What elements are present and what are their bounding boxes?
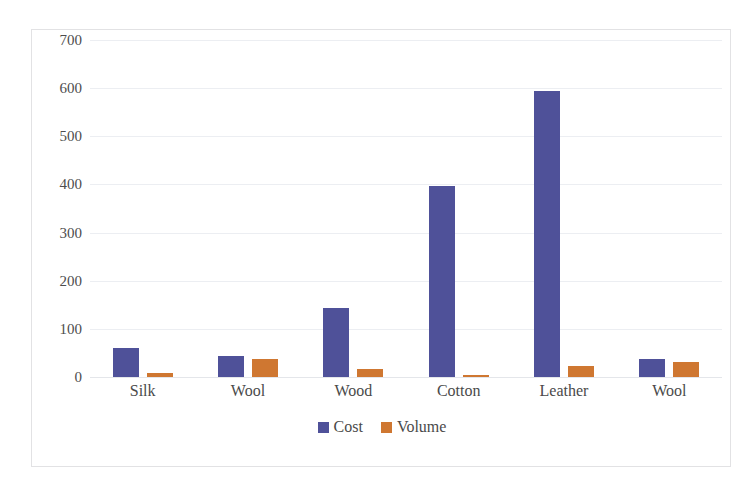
cut-off-header-strip: · · · · · · · · · · · · · · · · · (0, 0, 756, 14)
bars-layer (90, 40, 722, 377)
y-axis-tick-label: 400 (60, 176, 83, 193)
bar-volume-cotton[interactable] (463, 375, 489, 377)
x-axis-label-leather-4: Leather (540, 382, 589, 400)
x-axis-label-cotton-3: Cotton (437, 382, 481, 400)
legend-item-cost[interactable]: Cost (318, 418, 363, 436)
y-axis-tick-labels: 0100200300400500600700 (32, 30, 88, 468)
bar-group (406, 40, 511, 377)
bar-group (617, 40, 722, 377)
y-axis-tick-label: 300 (60, 224, 83, 241)
gridline (90, 377, 722, 378)
legend-swatch-icon (381, 422, 392, 433)
legend-label: Volume (397, 418, 446, 436)
y-axis-tick-label: 0 (75, 369, 83, 386)
y-axis-tick-label: 100 (60, 320, 83, 337)
plot-area (90, 40, 722, 377)
chart-frame: 0100200300400500600700 SilkWoolWoodCotto… (31, 29, 731, 467)
bar-volume-silk[interactable] (147, 373, 173, 377)
y-axis-tick-label: 500 (60, 128, 83, 145)
chart-plot-wrapper: 0100200300400500600700 SilkWoolWoodCotto… (32, 30, 732, 468)
bar-cost-wool[interactable] (639, 359, 665, 377)
bar-volume-wood[interactable] (357, 369, 383, 377)
legend-label: Cost (334, 418, 363, 436)
cut-off-header-text: · · · · · · · · · · · · · · · · · (18, 0, 209, 4)
bar-volume-wool[interactable] (252, 359, 278, 377)
x-axis-category-labels: SilkWoolWoodCottonLeatherWool (90, 382, 722, 408)
y-axis-tick-label: 200 (60, 272, 83, 289)
y-axis-tick-label: 600 (60, 80, 83, 97)
bar-group (511, 40, 616, 377)
bar-cost-cotton[interactable] (429, 186, 455, 377)
chart-legend: CostVolume (32, 418, 732, 436)
bar-cost-wood[interactable] (323, 308, 349, 377)
x-axis-label-wool-1: Wool (231, 382, 265, 400)
bar-group (90, 40, 195, 377)
bar-volume-wool[interactable] (673, 362, 699, 377)
bar-cost-wool[interactable] (218, 356, 244, 377)
bar-group (301, 40, 406, 377)
legend-swatch-icon (318, 422, 329, 433)
x-axis-label-silk-0: Silk (130, 382, 156, 400)
legend-item-volume[interactable]: Volume (381, 418, 446, 436)
x-axis-label-wool-5: Wool (652, 382, 686, 400)
bar-volume-leather[interactable] (568, 366, 594, 377)
bar-cost-silk[interactable] (113, 348, 139, 377)
bar-cost-leather[interactable] (534, 91, 560, 377)
y-axis-tick-label: 700 (60, 32, 83, 49)
x-axis-label-wood-2: Wood (334, 382, 372, 400)
bar-group (195, 40, 300, 377)
